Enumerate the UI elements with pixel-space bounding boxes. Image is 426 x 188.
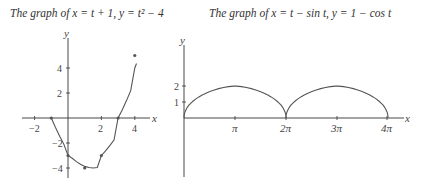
right-y-tick-label: 2	[174, 81, 179, 92]
right-cycloid-curve	[184, 86, 388, 118]
left-data-point	[50, 116, 53, 119]
right-x-tick-label: 2π	[280, 122, 292, 134]
left-data-point	[117, 116, 120, 119]
left-y-tick-label: 4	[57, 63, 62, 74]
left-x-axis-label: x	[151, 112, 157, 124]
left-parametric-curve	[51, 64, 136, 169]
right-x-axis-label: x	[404, 112, 410, 124]
left-data-point	[100, 154, 103, 157]
right-y-axis-label: y	[179, 34, 185, 46]
left-x-tick-label: 4	[132, 123, 137, 134]
left-y-axis-label: y	[63, 27, 69, 39]
right-x-tick-label: π	[232, 122, 238, 134]
left-data-point	[83, 166, 86, 169]
left-chart: −2 2 4 4 2 −2 −4 x y	[22, 27, 157, 178]
left-y-tick-label: 2	[57, 88, 62, 99]
right-x-tick-label: 4π	[381, 122, 393, 134]
figures-canvas: −2 2 4 4 2 −2 −4 x y π 2π 3π 4π 2 1	[0, 0, 426, 188]
right-chart: π 2π 3π 4π 2 1 x y	[174, 34, 410, 177]
left-data-point	[133, 54, 136, 57]
left-x-tick-label: 2	[98, 123, 103, 134]
left-y-tick-label: −4	[52, 163, 63, 174]
right-x-tick-label: 3π	[330, 122, 343, 134]
left-data-point	[66, 154, 69, 157]
left-x-tick-label: −2	[29, 123, 40, 134]
right-y-tick-label: 1	[174, 97, 179, 108]
